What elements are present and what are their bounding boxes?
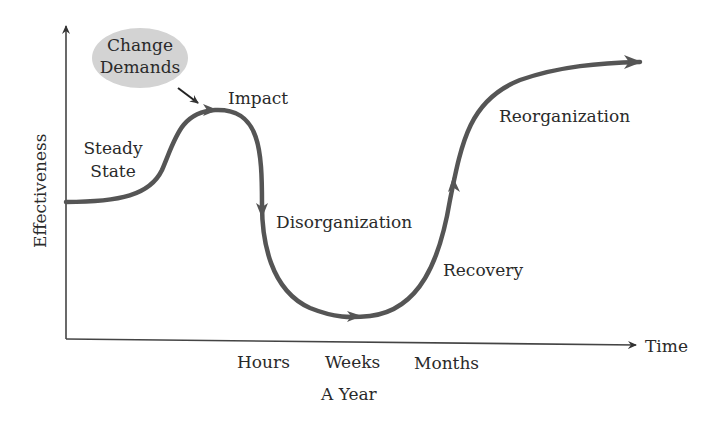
label-steady-state: Steady State — [78, 138, 148, 181]
x-tick-months: Months — [414, 353, 479, 373]
steady-line-1: Steady — [78, 138, 148, 158]
steady-line-2: State — [78, 161, 148, 181]
label-disorganization: Disorganization — [276, 212, 412, 232]
label-impact: Impact — [228, 88, 288, 108]
x-tick-hours: Hours — [237, 352, 290, 372]
x-subtick-a-year: A Year — [321, 384, 377, 404]
label-recovery: Recovery — [443, 260, 523, 280]
x-tick-weeks: Weeks — [325, 352, 380, 372]
change-demands-pointer — [178, 88, 198, 103]
label-reorganization: Reorganization — [499, 106, 630, 126]
y-axis-label: Effectiveness — [30, 134, 50, 248]
x-axis-label: Time — [645, 336, 688, 356]
change-demands-bubble: Change Demands — [92, 28, 188, 88]
bubble-line-2: Demands — [92, 56, 188, 78]
x-axis — [66, 339, 636, 345]
effectiveness-curve — [66, 62, 640, 317]
bubble-line-1: Change — [92, 34, 188, 56]
